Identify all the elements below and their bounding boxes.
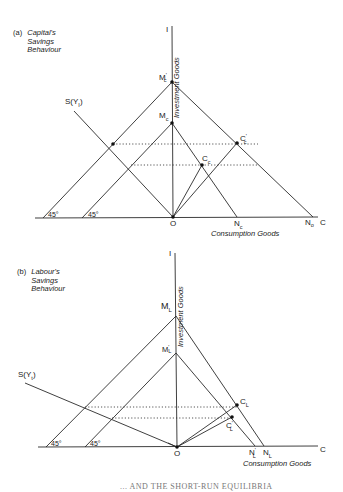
panel-a-x-axis-title: Consumption Goods [211,229,280,238]
label-a-c: Cc [202,154,211,165]
label-b-angle-1: 45° [51,440,62,447]
label-a-origin: O [170,219,176,228]
label-b-c: CL [240,397,249,408]
label-b-n-prime: N'L [249,447,256,459]
point-a-m [170,121,174,125]
panel-a-45-line-inner [82,123,172,218]
panel-a-x-axis [35,217,318,218]
label-a-n-prime: No [305,218,314,228]
label-a-m: Mc [159,111,169,122]
point-b-c [235,403,239,407]
diagram-canvas: I Investment Goods M'c Mc S(YI) C'c Cc 4… [0,0,343,492]
figure-caption-partial: ... AND THE SHORT-RUN EQUILIBRIA [120,482,273,491]
panel-a-ray-c [173,165,202,217]
label-a-angle-2: 45° [88,211,99,218]
label-a-angle-1: 45° [48,211,59,218]
panel-b-dotted-lines [85,407,237,418]
panel-b-x-axis-title: Consumption Goods [243,459,312,468]
panel-a-x-axis-label: C [320,218,326,227]
panel-b-45-line-inner [85,353,176,447]
panel-b-graph [25,253,318,447]
panel-b-x-axis-label: C [320,445,326,454]
panel-b-ppf-outer [176,316,264,446]
label-b-savings-curve: S(Yt) [18,370,36,381]
panel-b-ray-c-prime [177,417,232,447]
panel-b-savings-line [25,383,177,447]
label-b-origin: O [174,449,180,458]
panel-b-y-axis-label: I [169,249,171,258]
panel-a-ppf-inner [172,123,237,217]
panel-a-45-line-outer [43,82,172,218]
label-a-savings-curve: S(YI) [65,97,83,108]
panel-b-45-line-outer [46,316,176,447]
panel-a-savings-line [74,111,173,217]
label-b-m: ML [161,301,173,313]
label-b-angle-2: 45° [90,440,101,447]
point-b-c-prime [230,415,234,419]
label-a-c-prime: C'c [240,133,247,145]
panel-a-y-axis-title: Investment Goods [172,57,181,118]
point-a-c-prime [235,141,239,145]
panel-b-y-axis-title: Investment Goods [176,286,185,347]
label-b-m-prime: ML' [162,344,171,354]
panel-a-graph [35,26,318,218]
label-a-m-prime: M'c [159,72,167,83]
point-a-c [200,163,204,167]
panel-a-ppf-outer [172,82,313,217]
label-b-n: NL [263,448,272,459]
panel-a-y-axis-label: I [166,25,168,34]
point-a-savings-intersection [111,142,115,146]
label-b-c-prime: C'L [226,420,233,432]
